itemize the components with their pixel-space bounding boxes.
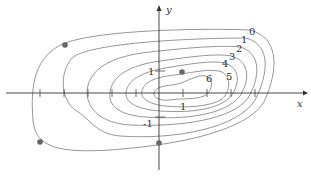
- contour-label-3: 3: [229, 51, 235, 62]
- x-axis-arrow-icon: [303, 91, 308, 96]
- y-tick-label-neg1: -1: [143, 118, 153, 129]
- contour-label-5: 5: [226, 71, 232, 82]
- point-marker: [62, 42, 68, 48]
- y-axis-label: y: [165, 4, 172, 15]
- contour-label-6: 6: [206, 73, 212, 84]
- y-axis-arrow-icon: [157, 5, 162, 11]
- point-marker: [156, 140, 162, 146]
- x-axis-label: x: [297, 98, 303, 109]
- contour-label-2: 2: [236, 43, 242, 54]
- contour-label-0: 0: [249, 26, 255, 37]
- contour-diagram: 1 -1 1 y x 0 1 2 3 4 5 6: [0, 0, 311, 180]
- point-marker: [179, 69, 185, 75]
- x-tick-label-1: 1: [180, 101, 186, 112]
- point-marker: [37, 139, 43, 145]
- contour-label-4: 4: [222, 58, 228, 69]
- y-tick-label-1: 1: [148, 66, 154, 77]
